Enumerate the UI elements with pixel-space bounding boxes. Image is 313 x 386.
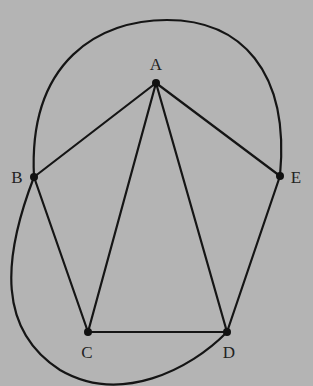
edge-B-C xyxy=(34,177,88,332)
vertex-A xyxy=(152,79,160,87)
graph-svg: ABCDE xyxy=(0,0,313,386)
graph-diagram: ABCDE xyxy=(0,0,313,386)
curved-edges xyxy=(11,20,281,384)
vertex-label-D: D xyxy=(223,343,235,362)
edge-A-C xyxy=(88,83,156,332)
vertex-label-B: B xyxy=(11,168,22,187)
vertex-label-C: C xyxy=(81,343,92,362)
vertex-D xyxy=(223,328,231,336)
vertex-label-A: A xyxy=(150,55,163,74)
vertex-E xyxy=(276,172,284,180)
edge-A-B xyxy=(34,83,156,177)
curve-B-D xyxy=(11,177,227,384)
vertex-labels: ABCDE xyxy=(11,55,301,362)
edge-A-E xyxy=(156,83,280,176)
vertex-label-E: E xyxy=(291,168,301,187)
curve-B-E xyxy=(34,20,282,177)
edge-D-E xyxy=(227,176,280,332)
edge-A-D xyxy=(156,83,227,332)
vertex-C xyxy=(84,328,92,336)
vertex-B xyxy=(30,173,38,181)
vertices xyxy=(30,79,284,336)
straight-edges xyxy=(34,83,280,332)
